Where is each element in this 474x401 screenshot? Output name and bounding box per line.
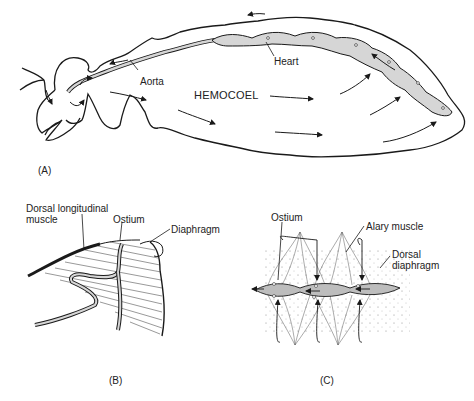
label-ostium-c: Ostium [271,212,303,223]
label-dorsal-longitudinal-muscle-1: Dorsal longitudinal [26,203,108,214]
label-diaphragm: Diaphragm [171,224,220,235]
label-dorsal-longitudinal-muscle-2: muscle [26,214,58,225]
label-dorsal-diaphragm-2: diaphragm [392,260,439,271]
label-alary-muscle: Alary muscle [366,221,423,232]
panel-label-b: (B) [109,375,122,386]
panel-label-c: (C) [320,375,334,386]
heart-vessel [212,32,452,115]
label-heart: Heart [274,56,298,67]
label-aorta: Aorta [140,76,164,87]
panel-c-alary-muscles [252,222,410,345]
insect-circulation-diagram [0,0,474,401]
label-dorsal-diaphragm-1: Dorsal [392,249,421,260]
label-ostium-b: Ostium [113,214,145,225]
label-hemocoel: HEMOCOEL [194,90,259,101]
panel-label-a: (A) [38,165,51,176]
panel-b-dorsal-vessel-section [28,214,170,336]
